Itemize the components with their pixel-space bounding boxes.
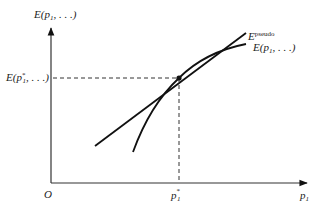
expectation-curve [133, 44, 246, 152]
origin-label: O [44, 188, 52, 200]
tangent-point [176, 75, 181, 80]
x-axis-label: p1 [299, 189, 309, 203]
diagram-canvas: E(p1, . . .) Epseudo E(p1, . . .) E(p*1,… [0, 0, 319, 208]
y-star-label: E(p*1, . . .) [5, 71, 49, 85]
x-star-label: p*1 [170, 187, 181, 203]
curve-label: E(p1, . . .) [252, 41, 296, 55]
y-axis-label: E(p1, . . .) [33, 8, 77, 22]
